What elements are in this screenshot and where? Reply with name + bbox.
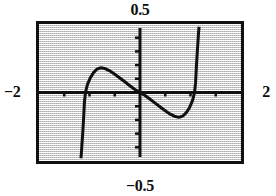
calculator-graph-figure: 0.5 −2 2 −0.5 xyxy=(0,0,276,196)
curve-branch xyxy=(140,93,195,118)
curve-branch xyxy=(81,93,86,159)
x-axis-min-label: −2 xyxy=(4,84,21,100)
x-axis-max-label: 2 xyxy=(262,84,270,100)
y-axis-max-label: 0.5 xyxy=(4,2,276,18)
y-axis-min-label: −0.5 xyxy=(4,178,276,194)
plot-canvas xyxy=(39,24,241,161)
plot-frame xyxy=(36,21,244,164)
curve-branch xyxy=(195,27,200,93)
curve-branch xyxy=(85,68,140,93)
